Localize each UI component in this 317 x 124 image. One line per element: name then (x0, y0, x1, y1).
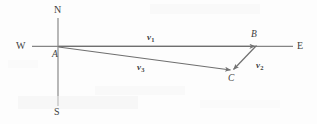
compass-label-north: N (54, 5, 61, 15)
compass-label-east: E (297, 41, 303, 51)
diagram-canvas (0, 0, 317, 124)
vector-diagram-figure: N S W E A B C v1 v2 v3 (0, 0, 317, 124)
point-label-c: C (228, 74, 234, 84)
vector-label-v3: v3 (137, 63, 144, 72)
vector-label-v1: v1 (147, 33, 154, 42)
vector-label-v3-subscript: 3 (141, 66, 144, 73)
vector-label-v2-subscript: 2 (260, 64, 263, 71)
compass-label-west: W (16, 41, 25, 51)
point-label-b: B (251, 30, 257, 40)
point-label-a: A (52, 50, 58, 60)
compass-label-south: S (54, 107, 60, 117)
vector-v2-line (234, 46, 257, 70)
vector-label-v2: v2 (256, 61, 263, 70)
vector-label-v1-subscript: 1 (151, 36, 154, 43)
